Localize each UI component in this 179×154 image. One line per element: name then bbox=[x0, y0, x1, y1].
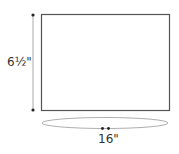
width-dimension-label: 16" bbox=[98, 133, 119, 145]
circumference-ellipse bbox=[42, 118, 168, 129]
width-dot-left bbox=[101, 127, 104, 130]
width-dot-right bbox=[107, 127, 110, 130]
height-dimension-label: 6½" bbox=[7, 56, 32, 68]
height-bottom-dot bbox=[31, 108, 34, 111]
dimension-diagram bbox=[0, 0, 179, 154]
height-top-dot bbox=[31, 13, 34, 16]
front-view-rectangle bbox=[42, 15, 170, 111]
